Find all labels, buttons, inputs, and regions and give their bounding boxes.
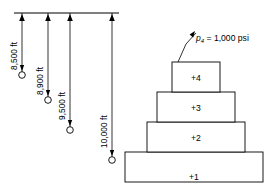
zone-block-stack: +1 +2 +3 +4 [125, 62, 263, 182]
perforation-circle-icon [109, 157, 116, 164]
depth-label-9500: 9,500 ft [58, 91, 67, 120]
perforation-circle-icon [45, 97, 52, 104]
depth-dimension-8900: 8,900 ft [36, 13, 51, 103]
leader-arrowhead-icon [190, 31, 195, 37]
arrowhead-up-icon [109, 14, 115, 21]
depth-label-10000: 10,000 ft [100, 115, 109, 148]
arrowhead-up-icon [67, 14, 73, 21]
zone-block-1-label: +1 [189, 172, 199, 182]
depth-dimension-8500: 8,500 ft [10, 13, 25, 78]
depth-label-8900: 8,900 ft [36, 66, 45, 95]
zone-block-4-label: +4 [191, 73, 201, 83]
leader-line-tail [178, 44, 186, 62]
arrowhead-down-icon [46, 90, 50, 96]
depth-dimension-10000: 10,000 ft [100, 13, 115, 163]
diagram-canvas: 8,500 ft 8,900 ft 9,500 ft 10,000 ft [0, 0, 278, 188]
arrowhead-up-icon [45, 14, 51, 21]
zone-block-2-label: +2 [191, 133, 201, 143]
arrowhead-up-icon [19, 14, 25, 21]
well-depth-diagram: 8,500 ft 8,900 ft 9,500 ft 10,000 ft [0, 0, 278, 188]
arrowhead-down-icon [68, 120, 72, 126]
depth-label-8500: 8,500 ft [10, 41, 19, 70]
pressure-value: = 1,000 psi [204, 33, 249, 43]
arrowhead-down-icon [20, 65, 24, 71]
pressure-annotation: p4 = 1,000 psi [195, 33, 249, 44]
perforation-circle-icon [19, 72, 26, 79]
perforation-circle-icon [67, 127, 74, 134]
pressure-leader [178, 31, 196, 62]
zone-block-3-label: +3 [191, 103, 201, 113]
arrowhead-down-icon [110, 150, 114, 156]
depth-dimension-9500: 9,500 ft [58, 13, 73, 133]
